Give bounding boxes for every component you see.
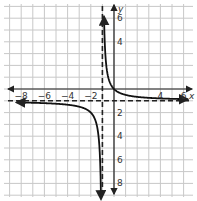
x-tick-label: 4 [158,91,164,101]
y-tick-label: 6 [117,13,123,23]
y-tick-label: 6 [117,155,123,165]
y-tick-label: 8 [117,178,123,188]
y-tick-label: 4 [117,37,123,47]
curve-right-branch [104,17,188,100]
y-tick-label: 4 [117,131,123,141]
x-tick-label: −2 [84,91,97,101]
x-tick-label: −8 [15,91,29,101]
curve-left-branch [17,102,101,199]
graph: −8−6−4−246642468xy [0,0,197,201]
x-tick-label: −6 [38,91,52,101]
graph-canvas: −8−6−4−246642468xy [0,0,197,201]
x-tick-label: −4 [61,91,75,101]
y-tick-label: 2 [117,108,123,118]
x-tick-label: 6 [181,91,187,101]
y-axis-label: y [117,4,124,14]
x-axis-label: x [188,91,195,101]
